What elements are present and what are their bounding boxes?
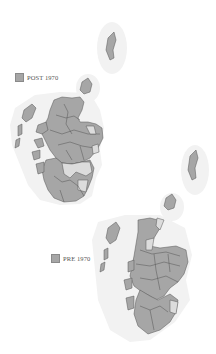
legend-label-post: POST 1970 [27, 74, 58, 81]
legend-swatch-pre [51, 254, 60, 263]
legend-pre-1970: PRE 1970 [51, 254, 90, 263]
post-1970-map [0, 0, 216, 354]
legend-label-pre: PRE 1970 [63, 255, 90, 262]
legend-post-1970: POST 1970 [15, 73, 58, 82]
legend-swatch-post [15, 73, 24, 82]
